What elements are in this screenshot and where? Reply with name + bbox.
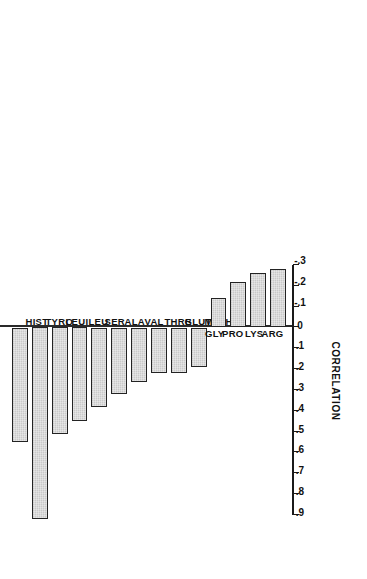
bar bbox=[151, 328, 167, 374]
bar bbox=[211, 298, 227, 327]
bar bbox=[91, 328, 107, 407]
category-label: ALA bbox=[125, 316, 145, 327]
category-label: PRO bbox=[222, 328, 244, 339]
bar bbox=[230, 282, 246, 328]
axis-tick-label: -.1 bbox=[294, 297, 306, 308]
bar bbox=[270, 269, 286, 327]
category-label: VAL bbox=[145, 316, 164, 327]
bar bbox=[32, 328, 48, 520]
axis-tick-label: .2 bbox=[296, 361, 304, 372]
rotated-chart-stage: .9.8.7.6.5.4.3.2.10-.1-.2-.3 CORRELATION… bbox=[0, 0, 367, 579]
bar bbox=[12, 328, 28, 443]
bar bbox=[72, 328, 88, 422]
value-axis-title: CORRELATION bbox=[330, 301, 341, 461]
axis-tick-label: .7 bbox=[296, 465, 304, 476]
category-label: SER bbox=[105, 316, 125, 327]
axis-tick-label: .8 bbox=[296, 486, 304, 497]
plot-area: .9.8.7.6.5.4.3.2.10-.1-.2-.3 CORRELATION… bbox=[0, 0, 367, 579]
axis-tick-label: .3 bbox=[296, 382, 304, 393]
axis-tick-label: .6 bbox=[296, 444, 304, 455]
axis-tick-label: .9 bbox=[296, 507, 304, 518]
bar bbox=[131, 328, 147, 382]
category-label: ARG bbox=[262, 328, 284, 339]
chart-figure: .9.8.7.6.5.4.3.2.10-.1-.2-.3 CORRELATION… bbox=[0, 0, 367, 579]
bar bbox=[111, 328, 127, 395]
axis-tick-label: .5 bbox=[296, 424, 304, 435]
bar bbox=[250, 273, 266, 327]
axis-tick-label: .4 bbox=[296, 403, 304, 414]
bars-layer: HISTTYROLEUILEUSERALAVALTHREGLUTMETHGLYP… bbox=[0, 265, 292, 515]
bar bbox=[52, 328, 68, 434]
category-label: LEU bbox=[65, 316, 85, 327]
axis-tick-label: .1 bbox=[296, 340, 304, 351]
axis-tick-label: -.3 bbox=[294, 255, 306, 266]
axis-tick-label: 0 bbox=[297, 321, 303, 332]
bar bbox=[171, 328, 187, 374]
axis-tick-label: -.2 bbox=[294, 276, 306, 287]
